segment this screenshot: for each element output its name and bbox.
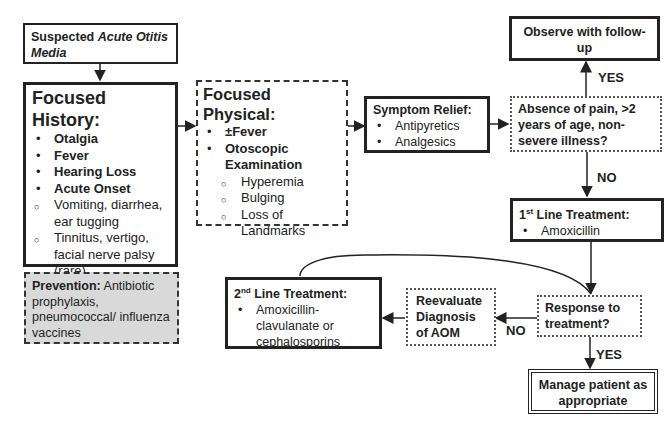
response-text: Response to treatment? xyxy=(545,301,620,331)
history-item: Fever xyxy=(32,148,169,165)
second-line-treatment-box: 2nd Line Treatment: Amoxicillin-clavulan… xyxy=(225,277,382,349)
history-minor-item: Vomiting, diarrhea, ear tugging xyxy=(32,197,169,230)
history-item: Otalgia xyxy=(32,131,169,148)
no-label-mid: NO xyxy=(597,170,617,185)
absence-text: Absence of pain, >2 years of age, non-se… xyxy=(518,102,636,148)
observe-box: Observe with follow-up xyxy=(509,16,660,61)
manage-text: Manage patient as appropriate xyxy=(539,378,647,408)
physical-item: ±Fever xyxy=(203,124,341,141)
physical-title: Focused Physical: xyxy=(203,84,341,124)
reevaluate-text: Reevaluate Diagnosis of AOM xyxy=(416,294,482,340)
second-line-title: 2nd Line Treatment: xyxy=(234,283,373,302)
manage-patient-box: Manage patient as appropriate xyxy=(528,369,658,414)
yes-label-bottom: YES xyxy=(596,347,622,362)
history-item: Acute Onset xyxy=(32,181,169,198)
physical-sub-item: Loss of Landmarks xyxy=(221,207,341,240)
physical-sub-item: Hyperemia xyxy=(221,174,341,191)
response-decision-box: Response to treatment? xyxy=(537,295,642,337)
symptom-item: Analgesics xyxy=(373,134,481,150)
prevention-box: Prevention: Antibiotic prophylaxis, pneu… xyxy=(24,272,179,344)
physical-item: Otoscopic Examination xyxy=(203,141,341,174)
second-line-item: Amoxicillin-clavulanate or cephalosporin… xyxy=(234,302,373,350)
first-line-title: 1st Line Treatment: xyxy=(519,204,655,223)
first-line-item: Amoxicillin xyxy=(519,223,655,239)
symptom-relief-box: Symptom Relief: Antipyretics Analgesics xyxy=(364,96,490,153)
suspected-prefix: Suspected xyxy=(31,30,98,44)
first-line-treatment-box: 1st Line Treatment: Amoxicillin xyxy=(510,198,664,242)
absence-decision-box: Absence of pain, >2 years of age, non-se… xyxy=(510,96,662,152)
symptom-item: Antipyretics xyxy=(373,118,481,134)
suspected-aom-box: Suspected Acute Otitis Media xyxy=(23,23,178,64)
physical-sub-item: Bulging xyxy=(221,190,341,207)
observe-text: Observe with follow-up xyxy=(523,25,645,55)
focused-physical-box: Focused Physical: ±Fever Otoscopic Exami… xyxy=(196,80,348,226)
history-title: Focused History: xyxy=(32,87,169,131)
reevaluate-box: Reevaluate Diagnosis of AOM xyxy=(406,288,496,346)
history-item: Hearing Loss xyxy=(32,164,169,181)
prevention-title: Prevention: xyxy=(32,279,101,293)
no-label-left: NO xyxy=(506,323,526,338)
symptom-title: Symptom Relief: xyxy=(373,102,481,118)
focused-history-box: Focused History: Otalgia Fever Hearing L… xyxy=(23,82,178,267)
yes-label-top: YES xyxy=(598,70,624,85)
